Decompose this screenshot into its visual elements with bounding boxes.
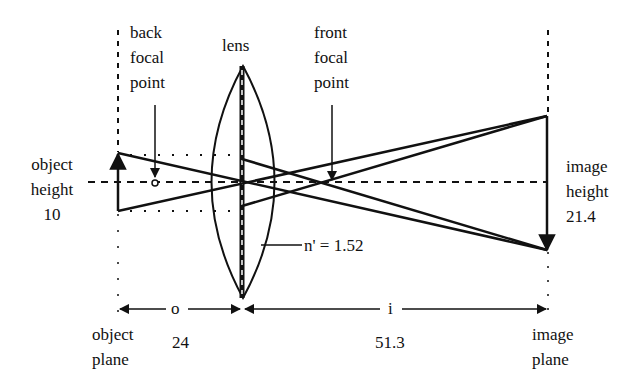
label-line: object <box>92 322 134 347</box>
front-focal-point-label: front focal point <box>314 20 349 95</box>
label-line: n' = 1.52 <box>304 233 363 258</box>
refractive-index-label: n' = 1.52 <box>304 233 363 258</box>
object-plane-label: object plane <box>92 322 134 372</box>
label-line: object <box>22 152 82 177</box>
label-line: height <box>566 179 609 204</box>
label-line: front <box>314 20 349 45</box>
object-distance-value: 24 <box>172 330 189 355</box>
object-distance-symbol: o <box>171 296 180 321</box>
label-line: height <box>22 177 82 202</box>
label-line: 21.4 <box>566 204 609 229</box>
label-line: back <box>130 20 165 45</box>
label-line: image <box>566 154 609 179</box>
image-distance-symbol: i <box>388 296 393 321</box>
label-line: 24 <box>172 330 189 355</box>
lens-label: lens <box>222 33 249 58</box>
label-line: plane <box>92 347 134 372</box>
label-line: image <box>532 322 574 347</box>
image-height-label: image height 21.4 <box>566 154 609 229</box>
image-distance-value: 51.3 <box>375 330 405 355</box>
label-line: o <box>171 296 180 321</box>
label-line: point <box>314 70 349 95</box>
label-line: focal <box>130 45 165 70</box>
object-height-label: object height 10 <box>22 152 82 227</box>
label-line: focal <box>314 45 349 70</box>
ray-bottom-through-lens <box>242 116 547 206</box>
label-line: point <box>130 70 165 95</box>
back-focal-point <box>152 180 158 186</box>
image-plane-label: image plane <box>532 322 574 372</box>
label-line: i <box>388 296 393 321</box>
label-line: 10 <box>22 202 82 227</box>
label-line: lens <box>222 33 249 58</box>
label-line: 51.3 <box>375 330 405 355</box>
back-focal-point-label: back focal point <box>130 20 165 95</box>
label-line: plane <box>532 347 574 372</box>
